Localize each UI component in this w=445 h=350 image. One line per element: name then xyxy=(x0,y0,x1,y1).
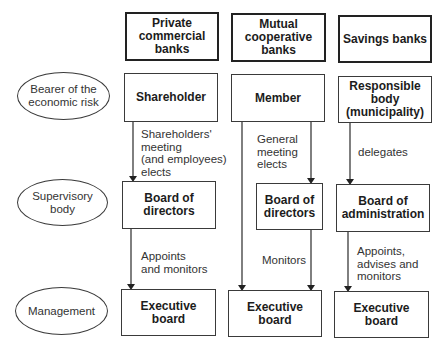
header-private-commercial-banks: Private commercial banks xyxy=(125,12,219,61)
box-mutual-executive-board: Executive board xyxy=(228,290,322,337)
header-savings-label: Savings banks xyxy=(343,33,427,46)
row-management-text: Management xyxy=(28,305,95,318)
mutual-board-label: Board of directors xyxy=(264,194,315,220)
member-label: Member xyxy=(255,92,301,105)
shareholder-label: Shareholder xyxy=(136,91,206,104)
box-member: Member xyxy=(231,74,325,122)
header-mutual-cooperative-banks: Mutual cooperative banks xyxy=(231,13,326,62)
box-mutual-board-of-directors: Board of directors xyxy=(256,183,323,230)
box-responsible-body: Responsible body (municipality) xyxy=(338,76,432,123)
edge-label-mutual-monitors: Monitors xyxy=(262,254,306,267)
box-private-board-of-directors: Board of directors xyxy=(122,181,216,229)
edge-label-private-elects: Shareholders' meeting (and employees) el… xyxy=(141,128,227,178)
box-private-executive-board: Executive board xyxy=(121,289,216,336)
edge-label-mutual-elects: General meeting elects xyxy=(257,133,298,171)
box-board-of-administration: Board of administration xyxy=(336,184,430,232)
administration-board-label: Board of administration xyxy=(342,195,425,221)
row-label-supervisory: Supervisory body xyxy=(17,179,108,226)
box-shareholder: Shareholder xyxy=(124,73,218,122)
savings-executive-label: Executive board xyxy=(353,302,409,328)
responsible-body-label: Responsible body (municipality) xyxy=(346,80,424,119)
row-label-risk: Bearer of the economic risk xyxy=(17,72,110,120)
header-mutual-label: Mutual cooperative banks xyxy=(245,18,312,57)
row-risk-text: Bearer of the economic risk xyxy=(28,83,98,109)
row-supervisory-text: Supervisory body xyxy=(32,190,93,216)
edge-label-savings-delegates: delegates xyxy=(358,146,408,159)
edge-label-private-appoints: Appoints and monitors xyxy=(141,250,207,275)
header-private-label: Private commercial banks xyxy=(139,17,206,56)
box-savings-executive-board: Executive board xyxy=(334,291,429,338)
row-label-management: Management xyxy=(15,287,108,335)
private-board-label: Board of directors xyxy=(143,192,194,218)
header-savings-banks: Savings banks xyxy=(338,15,432,63)
edge-label-savings-appoints: Appoints, advises and monitors xyxy=(357,245,418,283)
mutual-executive-label: Executive board xyxy=(247,301,303,327)
private-executive-label: Executive board xyxy=(140,300,196,326)
